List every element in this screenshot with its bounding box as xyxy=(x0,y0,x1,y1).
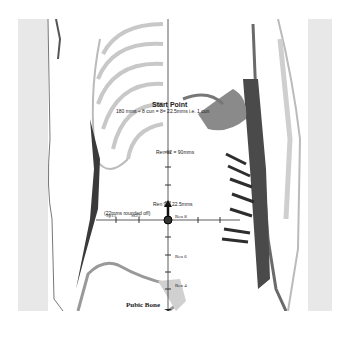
start-point-label: Start Point xyxy=(152,101,187,108)
pubic-bone-label: Pubic Bone xyxy=(126,302,160,309)
ren4-label: Ren 4 xyxy=(175,283,187,288)
ren8-label: Ren 8 xyxy=(175,214,187,219)
st25-label: St25 xyxy=(131,213,140,218)
ren9-label: Ren 9 = 22.5mms xyxy=(153,202,193,207)
torso-illustration xyxy=(18,19,332,311)
start-point-formula: 180 mms ÷ 8 cun = 8= 22.5mms i.e. 1 cun xyxy=(116,109,209,114)
ren12-label: Ren 12 = 90mms xyxy=(156,150,194,155)
ren6-label: Ren 6 xyxy=(175,254,187,259)
anatomy-figure: Start Point 180 mms ÷ 8 cun = 8= 22.5mms… xyxy=(18,19,332,311)
sp15-label: Sp15 xyxy=(106,213,116,218)
